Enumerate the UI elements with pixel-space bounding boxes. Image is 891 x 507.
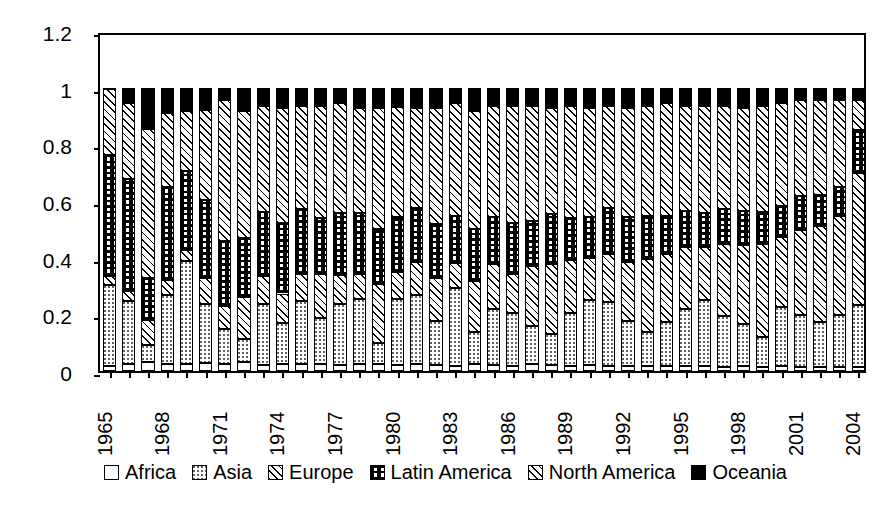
bar-1987[interactable]	[525, 88, 538, 371]
bar-1972[interactable]	[237, 88, 250, 371]
bar-2003[interactable]	[833, 88, 846, 371]
bar-segment-africa	[219, 364, 230, 370]
bar-1991[interactable]	[602, 88, 615, 371]
legend-item-europe[interactable]: Europe	[268, 462, 354, 482]
bar-1993[interactable]	[641, 88, 654, 371]
x-axis-tick-mark	[647, 371, 649, 378]
bar-1986[interactable]	[506, 88, 519, 371]
bar-1970[interactable]	[199, 88, 212, 371]
bar-1966[interactable]	[122, 88, 135, 371]
bar-segment-africa	[738, 366, 749, 370]
bar-1977[interactable]	[333, 88, 346, 371]
bar-1980[interactable]	[391, 88, 404, 371]
bar-segment-africa	[315, 364, 326, 370]
bar-1979[interactable]	[372, 88, 385, 371]
bar-segment-europe	[757, 244, 768, 337]
bar-1985[interactable]	[487, 88, 500, 371]
bar-segment-north-america	[776, 103, 787, 206]
bar-segment-asia	[219, 329, 230, 364]
x-axis-tick-mark	[110, 371, 112, 378]
bar-1995[interactable]	[679, 88, 692, 371]
x-axis-tick-mark	[263, 371, 265, 378]
bar-1990[interactable]	[583, 88, 596, 371]
bar-1967[interactable]	[141, 88, 154, 371]
x-axis-tick-label: 1983	[440, 412, 460, 457]
bar-segment-asia	[162, 295, 173, 364]
bar-1974[interactable]	[276, 88, 289, 371]
bar-segment-asia	[642, 332, 653, 366]
bar-segment-latin-america	[238, 238, 249, 297]
bar-segment-asia	[315, 318, 326, 364]
bar-segment-latin-america	[507, 223, 518, 274]
bar-1997[interactable]	[717, 88, 730, 371]
bar-1984[interactable]	[468, 88, 481, 371]
bar-segment-latin-america	[853, 130, 864, 172]
bar-segment-asia	[373, 343, 384, 364]
bar-2000[interactable]	[775, 88, 788, 371]
bar-segment-oceania	[238, 89, 249, 112]
bar-segment-europe	[392, 272, 403, 299]
bar-1983[interactable]	[449, 88, 462, 371]
bar-segment-africa	[334, 365, 345, 370]
legend-item-asia[interactable]: Asia	[192, 462, 252, 482]
bar-segment-oceania	[142, 89, 153, 129]
bar-segment-africa	[546, 365, 557, 370]
bar-segment-europe	[450, 263, 461, 288]
bar-segment-oceania	[565, 89, 576, 106]
bar-1988[interactable]	[545, 88, 558, 371]
bar-segment-latin-america	[757, 212, 768, 244]
bar-segment-africa	[411, 364, 422, 370]
bar-1976[interactable]	[314, 88, 327, 371]
bar-segment-africa	[258, 365, 269, 370]
x-axis-tick-mark	[302, 371, 304, 378]
x-axis-tick-mark	[628, 371, 630, 378]
bar-1989[interactable]	[564, 88, 577, 371]
bar-2001[interactable]	[794, 88, 807, 371]
bar-1965[interactable]	[103, 88, 116, 371]
bar-segment-north-america	[507, 106, 518, 224]
x-axis-tick-label: 1965	[95, 412, 115, 457]
bar-segment-oceania	[853, 89, 864, 100]
bar-1971[interactable]	[218, 88, 231, 371]
y-axis-tick-label: 0.6	[43, 193, 72, 214]
legend-item-latin-america[interactable]: Latin America	[370, 462, 512, 482]
x-axis-tick-mark	[666, 371, 668, 378]
x-axis-tick-mark	[378, 371, 380, 378]
bar-1994[interactable]	[660, 88, 673, 371]
x-axis-tick-label: 1980	[383, 412, 403, 457]
legend-item-africa[interactable]: Africa	[104, 462, 176, 482]
bar-1996[interactable]	[698, 88, 711, 371]
x-axis-tick-mark	[436, 371, 438, 378]
bar-segment-north-america	[699, 106, 710, 213]
bar-1975[interactable]	[295, 88, 308, 371]
bar-1969[interactable]	[180, 88, 193, 371]
bar-segment-europe	[526, 266, 537, 326]
bar-1999[interactable]	[756, 88, 769, 371]
bar-segment-north-america	[603, 106, 614, 208]
bar-1992[interactable]	[621, 88, 634, 371]
bar-segment-latin-america	[718, 209, 729, 244]
bar-segment-africa	[680, 366, 691, 371]
bar-1981[interactable]	[410, 88, 423, 371]
bar-2002[interactable]	[813, 88, 826, 371]
bar-segment-europe	[834, 216, 845, 314]
bar-1978[interactable]	[353, 88, 366, 371]
bar-1968[interactable]	[161, 88, 174, 371]
bar-2004[interactable]	[852, 88, 865, 371]
bar-segment-europe	[411, 262, 422, 296]
bar-segment-oceania	[392, 89, 403, 107]
x-axis-tick-label: 1992	[613, 412, 633, 457]
bar-segment-latin-america	[661, 216, 672, 254]
bar-segment-oceania	[123, 89, 134, 103]
y-axis-tick-label: 0.4	[43, 249, 72, 270]
x-axis-tick-mark	[762, 371, 764, 378]
bar-segment-oceania	[315, 89, 326, 106]
bar-1973[interactable]	[257, 88, 270, 371]
legend-item-north-america[interactable]: North America	[528, 462, 676, 482]
bar-1998[interactable]	[737, 88, 750, 371]
x-axis: 1965196819711974197719801983198619891992…	[0, 378, 891, 456]
legend-item-oceania[interactable]: Oceania	[691, 462, 787, 482]
x-axis-tick-mark	[359, 371, 361, 378]
bar-1982[interactable]	[429, 88, 442, 371]
stacked-bar-chart: 00.20.40.60.811.2 1965196819711974197719…	[0, 0, 891, 507]
